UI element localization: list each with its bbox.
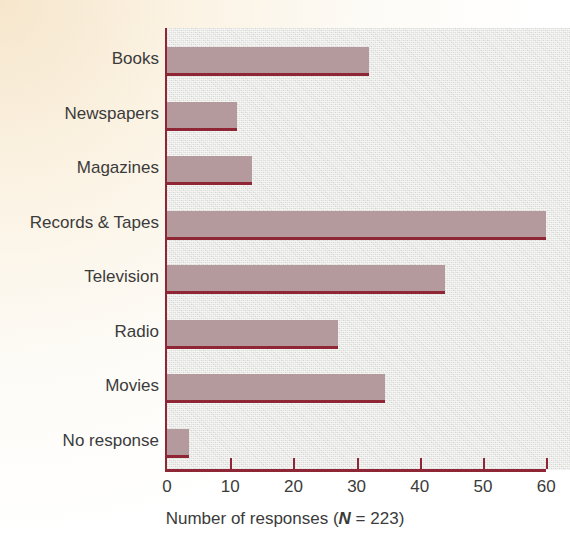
bar — [167, 102, 237, 128]
x-axis-tick-label: 40 — [410, 477, 429, 497]
bar-baseline-rule — [167, 182, 252, 185]
category-label: Records & Tapes — [0, 213, 159, 233]
x-axis-tick — [357, 458, 359, 469]
category-label: Movies — [0, 376, 159, 396]
bar — [167, 47, 369, 73]
bar — [167, 429, 189, 455]
y-axis-line — [165, 28, 167, 470]
plot-area — [166, 28, 570, 470]
x-axis-tick-label: 10 — [221, 477, 240, 497]
bar-baseline-rule — [167, 346, 338, 349]
category-label: Magazines — [0, 158, 159, 178]
plot-halftone-texture — [166, 28, 570, 470]
x-axis-title-n-symbol: N — [339, 509, 351, 528]
bar — [167, 374, 385, 400]
bar-baseline-rule — [167, 237, 546, 240]
x-axis-tick-label: 50 — [474, 477, 493, 497]
x-axis-tick — [230, 458, 232, 469]
x-axis-title-suffix: = 223) — [351, 509, 404, 528]
x-axis-tick-label: 30 — [347, 477, 366, 497]
category-label: Radio — [0, 322, 159, 342]
bar-baseline-rule — [167, 455, 189, 458]
category-label: Television — [0, 267, 159, 287]
category-label: No response — [0, 431, 159, 451]
bar-baseline-rule — [167, 400, 385, 403]
x-axis-title: Number of responses (N = 223) — [0, 509, 570, 529]
x-axis-tick-label: 60 — [537, 477, 556, 497]
bar — [167, 156, 252, 182]
x-axis-tick — [546, 458, 548, 469]
bar-baseline-rule — [167, 291, 445, 294]
category-label: Books — [0, 49, 159, 69]
x-axis-title-prefix: Number of responses ( — [166, 509, 339, 528]
x-axis-line — [165, 469, 546, 472]
bar — [167, 320, 338, 346]
category-label: Newspapers — [0, 104, 159, 124]
bar — [167, 265, 445, 291]
x-axis-tick — [420, 458, 422, 469]
bar-baseline-rule — [167, 73, 369, 76]
x-axis-tick — [293, 458, 295, 469]
chart-figure: BooksNewspapersMagazinesRecords & TapesT… — [0, 0, 570, 552]
bar — [167, 211, 546, 237]
x-axis-tick-label: 0 — [162, 477, 171, 497]
x-axis-tick-label: 20 — [284, 477, 303, 497]
x-axis-tick — [483, 458, 485, 469]
bar-baseline-rule — [167, 128, 237, 131]
